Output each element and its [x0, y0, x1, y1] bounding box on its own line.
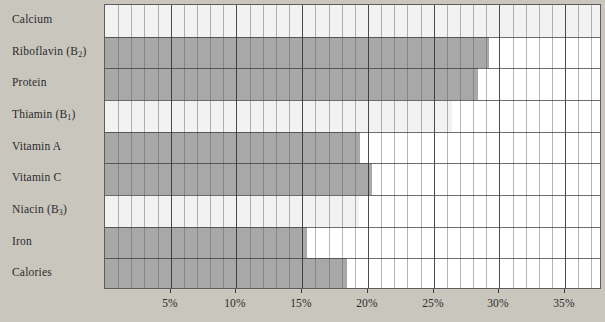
bar-row	[105, 195, 600, 227]
x-tick-mark	[498, 289, 499, 293]
x-tick-mark	[170, 289, 171, 293]
plot-area	[104, 4, 601, 289]
bar-niacin-b3	[105, 195, 359, 227]
bar-row	[105, 163, 600, 195]
bar-protein	[105, 68, 478, 100]
bar-row	[105, 5, 600, 37]
bar-vitamin-a	[105, 132, 360, 164]
bar-row	[105, 37, 600, 69]
bar-calcium	[105, 5, 601, 37]
category-label-niacin-b3: Niacin (B3)	[0, 204, 91, 216]
x-tick-label: 25%	[422, 297, 444, 309]
bar-row	[105, 258, 600, 289]
category-axis-labels: CalciumRiboflavin (B2)ProteinThiamin (B1…	[0, 4, 100, 289]
category-label-riboflavin-b2: Riboflavin (B2)	[0, 46, 91, 58]
chart-figure: CalciumRiboflavin (B2)ProteinThiamin (B1…	[0, 0, 605, 322]
category-label-vitamin-c: Vitamin C	[0, 172, 91, 184]
bar-thiamin-b1	[105, 100, 452, 132]
x-tick-mark	[564, 289, 565, 293]
category-label-protein: Protein	[0, 77, 91, 89]
x-tick-mark	[301, 289, 302, 293]
category-label-calories: Calories	[0, 267, 91, 279]
bar-vitamin-c	[105, 163, 372, 195]
category-label-vitamin-a: Vitamin A	[0, 141, 91, 153]
x-tick-mark	[235, 289, 236, 293]
bar-iron	[105, 227, 307, 259]
bar-row	[105, 132, 600, 164]
bar-riboflavin-b2	[105, 37, 489, 69]
x-tick-label: 5%	[162, 297, 178, 309]
x-tick-mark	[433, 289, 434, 293]
x-axis: 5%10%15%20%25%30%35%	[104, 289, 601, 319]
bar-row	[105, 100, 600, 132]
x-tick-label: 20%	[356, 297, 378, 309]
x-tick-mark	[367, 289, 368, 293]
x-tick-label: 35%	[553, 297, 575, 309]
x-tick-label: 30%	[487, 297, 509, 309]
category-label-thiamin-b1: Thiamin (B1)	[0, 109, 91, 121]
category-label-iron: Iron	[0, 236, 91, 248]
bar-row	[105, 227, 600, 259]
category-label-calcium: Calcium	[0, 14, 91, 26]
bar-row	[105, 68, 600, 100]
x-tick-label: 10%	[224, 297, 246, 309]
bar-calories	[105, 258, 347, 289]
x-tick-label: 15%	[290, 297, 312, 309]
